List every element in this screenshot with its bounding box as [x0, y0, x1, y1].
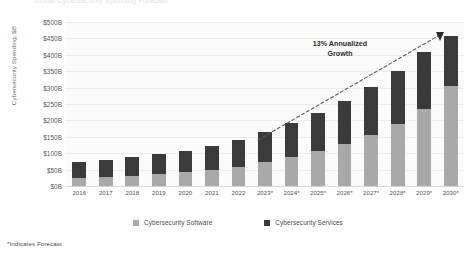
- y-axis-tick: $0B: [26, 183, 62, 190]
- x-axis-tick: 2023*: [252, 189, 279, 196]
- y-axis-title: Cybersecurity Spending, $B: [10, 1, 17, 131]
- bar-segment-software: [232, 167, 246, 186]
- bar-segment-services: [338, 101, 352, 144]
- growth-annotation: 13% Annualized Growth: [288, 40, 392, 60]
- bar-segment-software: [125, 176, 139, 186]
- bar-group[interactable]: [444, 36, 458, 186]
- bar-segment-software: [99, 177, 113, 186]
- x-axis-tick: 2024*: [278, 189, 305, 196]
- y-axis-tick: $150B: [26, 134, 62, 141]
- x-axis-tick: 2025*: [305, 189, 332, 196]
- bar-segment-services: [444, 36, 458, 85]
- bar-segment-services: [258, 132, 272, 163]
- legend-label-software: Cybersecurity Software: [144, 219, 212, 226]
- bar-segment-software: [391, 124, 405, 186]
- x-axis-tick: 2026*: [331, 189, 358, 196]
- bar-group[interactable]: [99, 160, 113, 186]
- x-axis-baseline: [66, 186, 464, 187]
- growth-annotation-line1: 13% Annualized: [313, 40, 367, 48]
- bar-group[interactable]: [311, 113, 325, 186]
- bar-segment-services: [99, 160, 113, 176]
- bar-segment-software: [338, 144, 352, 186]
- bar-group[interactable]: [179, 151, 193, 186]
- bar-segment-software: [72, 178, 86, 186]
- x-axis-tick: 2021: [199, 189, 226, 196]
- bar-segment-services: [364, 87, 378, 135]
- bar-segment-services: [311, 113, 325, 152]
- chart-legend: Cybersecurity Software Cybersecurity Ser…: [0, 219, 476, 226]
- y-axis-tick: $500B: [26, 19, 62, 26]
- bar-segment-software: [205, 170, 219, 186]
- y-axis-tick: $250B: [26, 101, 62, 108]
- bar-group[interactable]: [417, 52, 431, 186]
- bar-group[interactable]: [125, 157, 139, 186]
- y-axis-tick: $350B: [26, 68, 62, 75]
- bar-group[interactable]: [152, 154, 166, 186]
- x-axis-tick: 2016: [66, 189, 93, 196]
- bar-group[interactable]: [232, 140, 246, 186]
- x-axis-tick: 2018: [119, 189, 146, 196]
- bar-segment-services: [72, 162, 86, 177]
- bar-segment-software: [311, 151, 325, 186]
- chart-footnote: *Indicates Forecast: [7, 240, 62, 247]
- legend-item-software[interactable]: Cybersecurity Software: [133, 219, 212, 226]
- bar-segment-services: [125, 157, 139, 175]
- bar-group[interactable]: [72, 162, 86, 186]
- x-axis-tick: 2022: [225, 189, 252, 196]
- chart-top-title: Global Cybersecurity Spending Forecast: [34, 0, 334, 7]
- legend-swatch-services-icon: [264, 220, 270, 226]
- x-axis-tick: 2027*: [358, 189, 385, 196]
- bar-segment-software: [258, 162, 272, 186]
- x-axis-tick: 2017: [93, 189, 120, 196]
- bar-segment-software: [152, 174, 166, 186]
- x-axis-tick: 2028*: [384, 189, 411, 196]
- y-axis-tick: $400B: [26, 52, 62, 59]
- y-axis-tick: $100B: [26, 150, 62, 157]
- bar-group[interactable]: [205, 146, 219, 186]
- y-axis-tick: $50B: [26, 167, 62, 174]
- bar-segment-services: [179, 151, 193, 172]
- bars-layer: [66, 22, 464, 186]
- bar-segment-services: [285, 123, 299, 157]
- bar-segment-software: [364, 135, 378, 186]
- chart-screenshot: Global Cybersecurity Spending Forecast C…: [0, 0, 476, 260]
- legend-item-services[interactable]: Cybersecurity Services: [264, 219, 343, 226]
- bar-group[interactable]: [285, 123, 299, 186]
- x-axis-tick: 2030*: [437, 189, 464, 196]
- growth-annotation-line2: Growth: [327, 50, 352, 58]
- y-axis-tick: $300B: [26, 85, 62, 92]
- bar-segment-services: [391, 71, 405, 125]
- bar-group[interactable]: [391, 71, 405, 186]
- bar-group[interactable]: [364, 87, 378, 186]
- legend-swatch-software-icon: [133, 220, 139, 226]
- bar-segment-services: [205, 146, 219, 170]
- x-axis-tick: 2019: [146, 189, 173, 196]
- legend-label-services: Cybersecurity Services: [275, 219, 343, 226]
- y-axis-tick: $450B: [26, 35, 62, 42]
- bar-segment-services: [152, 154, 166, 174]
- y-axis-tick: $200B: [26, 117, 62, 124]
- bar-segment-services: [232, 140, 246, 167]
- bar-segment-software: [179, 172, 193, 186]
- bar-segment-software: [417, 109, 431, 186]
- bar-segment-software: [285, 157, 299, 186]
- bar-group[interactable]: [258, 132, 272, 186]
- bar-group[interactable]: [338, 101, 352, 186]
- x-axis-tick: 2020: [172, 189, 199, 196]
- x-axis-tick: 2029*: [411, 189, 438, 196]
- bar-segment-software: [444, 86, 458, 186]
- bar-segment-services: [417, 52, 431, 110]
